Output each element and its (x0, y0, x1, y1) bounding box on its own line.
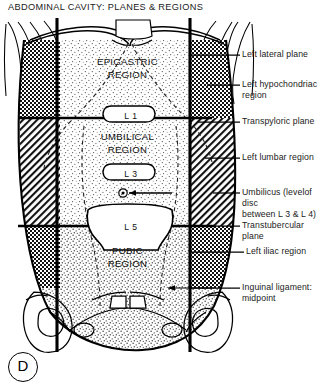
annotation-line-2: midpoint (242, 293, 320, 304)
vertebra-label-l5: L 5 (104, 222, 158, 232)
annotation-line-1: Left lateral plane (242, 49, 308, 60)
annotation-left-lateral-plane: Left lateral plane (242, 49, 308, 60)
annotation-line-1: Umbilicus (levelof disc (242, 187, 322, 209)
annotation-left-lumbar-region: Left lumbar region (242, 152, 314, 163)
vertebra-label-l3: L 3 (104, 169, 158, 179)
annotation-line-1: Left hypochondriac (242, 79, 320, 90)
vertebra-label-l1: L 1 (104, 111, 158, 121)
annotation-inguinal-ligament: Inguinal ligament: midpoint (242, 282, 320, 304)
panel-letter: D (8, 352, 38, 382)
annotation-line-2: region (242, 90, 320, 101)
annotation-line-1: Transpyloric plane (242, 116, 314, 127)
annotation-umbilicus: Umbilicus (levelof disc between L 3 & L … (242, 187, 322, 220)
region-label-epigastric: EPIGASTRIC REGION (70, 56, 185, 81)
annotation-line-1: Left lumbar region (242, 152, 314, 163)
region-label-umbilical: UMBILICAL REGION (70, 131, 185, 156)
annotation-transtubercular-plane: Transtubercular plane (242, 220, 322, 242)
annotation-line-2: between L 3 & L 4) (242, 209, 322, 220)
region-label-pubic: PUBIC REGION (70, 245, 185, 270)
annotation-left-hypochondriac-region: Left hypochondriac region (242, 79, 320, 101)
annotation-line-1: Inguinal ligament: (242, 282, 320, 293)
annotation-transpyloric-plane: Transpyloric plane (242, 116, 314, 127)
annotation-line-1: Left iliac region (246, 246, 306, 257)
abdominal-cavity-figure: ABDOMINAL CAVITY: PLANES & REGIONS (0, 0, 322, 391)
annotation-left-iliac-region: Left iliac region (246, 246, 306, 257)
annotation-line-1: Transtubercular plane (242, 220, 322, 242)
